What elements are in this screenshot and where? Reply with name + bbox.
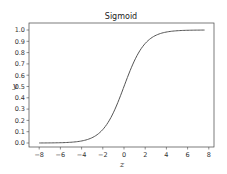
chart-title: Sigmoid [105,12,137,21]
y-tick-label: 0.8 [15,49,25,57]
y-tick-label: 0.6 [15,72,25,80]
y-tick-label: 0.2 [15,117,25,125]
y-tick-label: 1.0 [15,26,25,34]
plot-area [29,23,214,147]
y-axis-label: y [12,81,18,90]
y-tick-label: 0.4 [15,94,25,102]
x-tick-label: −4 [77,151,87,159]
x-axis-ticks: −8−6−4−202468 [34,147,210,159]
y-tick-label: 0.7 [15,60,25,68]
y-tick-label: 0.9 [15,38,25,46]
x-tick-label: 4 [164,151,168,159]
y-tick-label: 0.0 [15,139,25,147]
sigmoid-chart: Sigmoid −8−6−4−202468 0.00.10.20.30.40.5… [0,0,227,174]
x-tick-label: −6 [56,151,66,159]
x-tick-label: 8 [207,151,211,159]
x-tick-label: −2 [98,151,108,159]
x-tick-label: 6 [186,151,190,159]
x-tick-label: 0 [122,151,126,159]
x-tick-label: 2 [143,151,147,159]
x-axis-label: z [119,160,125,169]
y-tick-label: 0.3 [15,105,25,113]
x-tick-label: −8 [34,151,44,159]
y-tick-label: 0.1 [15,128,25,136]
